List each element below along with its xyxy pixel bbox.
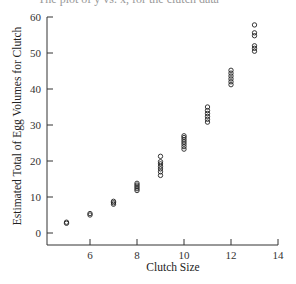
- data-point: [229, 68, 233, 72]
- x-axis-title: Clutch Size: [146, 261, 199, 273]
- y-tick-label: 0: [36, 227, 42, 239]
- data-point: [158, 154, 162, 158]
- data-points: [64, 23, 256, 226]
- y-tick-label: 30: [30, 119, 42, 131]
- x-tick-label: 6: [87, 249, 93, 261]
- data-point: [252, 31, 256, 35]
- x-tick-label: 12: [226, 249, 237, 261]
- y-tick-label: 10: [30, 191, 42, 203]
- y-axis-title: Estimated Total of Egg Volumes for Clutc…: [11, 26, 24, 225]
- x-tick-label: 8: [134, 249, 140, 261]
- data-point: [252, 23, 256, 27]
- x-tick-label: 14: [273, 249, 285, 261]
- y-tick-label: 20: [30, 155, 42, 167]
- x-tick-label: 10: [179, 249, 191, 261]
- y-tick-label: 60: [30, 11, 42, 23]
- y-tick-label: 50: [30, 47, 42, 59]
- y-tick-label: 40: [30, 83, 42, 95]
- scatter-chart: 010203040506068101214 Clutch Size Estima…: [0, 0, 296, 284]
